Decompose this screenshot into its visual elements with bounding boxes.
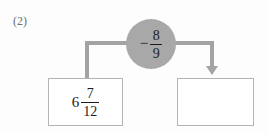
connector-right-vertical-line	[210, 41, 214, 69]
operator-expression: − 8 9	[140, 28, 162, 61]
operator-fraction-bar	[150, 44, 162, 45]
arrow-down-icon	[206, 66, 218, 75]
input-fraction-numerator: 7	[85, 86, 96, 101]
operator-circle: − 8 9	[126, 19, 176, 69]
answer-input-box[interactable]	[177, 78, 254, 126]
input-fraction: 7 12	[81, 86, 99, 119]
operator-fraction-denominator: 9	[151, 46, 162, 61]
minus-sign-icon: −	[140, 36, 148, 52]
input-fraction-denominator: 12	[81, 104, 99, 119]
operator-fraction-numerator: 8	[151, 28, 162, 43]
problem-number-label: (2)	[13, 14, 27, 28]
input-value-box: 6 7 12	[48, 78, 123, 126]
operator-fraction: 8 9	[150, 28, 162, 61]
answer-value[interactable]	[178, 79, 253, 125]
input-whole-part: 6	[72, 95, 82, 110]
input-mixed-number: 6 7 12	[72, 86, 100, 119]
input-fraction-bar	[81, 102, 99, 103]
connector-left-vertical-line	[85, 41, 89, 79]
worksheet-problem: (2) − 8 9 6 7 12	[0, 0, 268, 133]
